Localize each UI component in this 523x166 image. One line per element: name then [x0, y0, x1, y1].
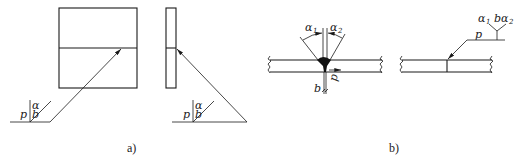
figure-b-section-view: α 1 α 2 b p	[268, 21, 383, 95]
caption-b: b)	[389, 141, 399, 155]
b-label: b	[32, 108, 39, 121]
alpha2-label: α	[501, 12, 509, 25]
weld-bead	[317, 57, 331, 72]
caption-a: a)	[127, 141, 136, 155]
figure-a-side-view: α b p	[166, 8, 247, 122]
break-line-left	[268, 56, 271, 73]
alpha1-label: α	[478, 12, 486, 25]
break-line-left	[400, 56, 403, 73]
b-label: b	[314, 82, 321, 95]
alpha1-sub: 1	[313, 27, 317, 35]
break-line-right	[380, 56, 383, 73]
alpha2-label: α	[330, 21, 338, 34]
gap-tick-1	[322, 89, 325, 92]
p-label: p	[20, 108, 27, 121]
alpha1-sub: 1	[486, 18, 490, 26]
bevel-line-2	[330, 34, 345, 60]
alpha2-sub: 2	[508, 18, 514, 26]
b-label: b	[494, 12, 501, 25]
alpha2-sub: 2	[337, 27, 343, 35]
weld-symbol-bevel-right	[497, 24, 506, 31]
figure-a-front-view: α b p	[10, 8, 137, 122]
alpha1-label: α	[305, 21, 313, 34]
p-label: p	[327, 73, 341, 82]
p-label: p	[183, 108, 190, 121]
break-line-right	[490, 56, 493, 73]
b-label: b	[195, 108, 202, 121]
bevel-line-1	[300, 37, 318, 60]
weld-symbol-diagram: α b p α b p a) α 1 α 2 b	[0, 0, 523, 166]
figure-b-drawing-view: α 1 b α 2 p	[400, 12, 514, 73]
leader-arrow	[50, 49, 121, 122]
p-label: p	[475, 28, 482, 41]
gap-tick-2	[325, 89, 328, 92]
leader-arrow	[448, 40, 467, 59]
